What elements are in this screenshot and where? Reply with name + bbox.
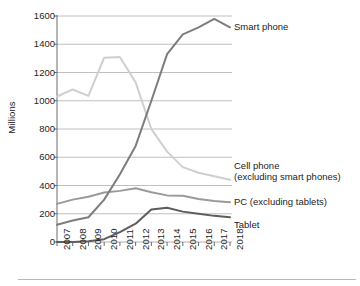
x-tick-label: 2015	[187, 228, 198, 250]
y-tick-label: 800	[39, 124, 55, 134]
y-tick-label: 200	[39, 209, 55, 219]
y-axis-tick-labels: 16001400120010008006004002000	[20, 0, 55, 286]
y-tick-label: 400	[39, 181, 55, 191]
x-tick-label: 2009	[92, 228, 103, 250]
series-label-pc: PC (excluding tablets)	[234, 196, 327, 208]
x-tick-label: 2008	[77, 228, 88, 250]
y-tick-label: 1000	[34, 96, 55, 106]
x-tick-label: 2011	[124, 229, 135, 250]
x-tick-label: 2017	[218, 228, 229, 250]
y-tick-label: 1600	[34, 11, 55, 21]
x-tick-label: 2007	[61, 228, 72, 250]
series-label-tablet: Tablet	[234, 219, 259, 231]
series-label-cell-phone-line1: Cell phone	[234, 160, 279, 172]
x-tick-label: 2013	[155, 228, 166, 250]
y-tick-label: 0	[50, 237, 55, 247]
x-tick-label: 2018	[234, 228, 245, 250]
line-chart: Millions 16001400120010008006004002000 2…	[0, 0, 360, 286]
y-tick-label: 1400	[34, 39, 55, 49]
series-label-cell-phone-line2: (excluding smart phones)	[234, 171, 341, 183]
y-axis-title: Millions	[6, 88, 17, 148]
y-tick-label: 1200	[34, 68, 55, 78]
page-bottom-rule	[18, 279, 356, 280]
x-tick-label: 2014	[171, 228, 182, 250]
x-tick-label: 2012	[140, 228, 151, 250]
y-tick-label: 600	[39, 152, 55, 162]
x-tick-label: 2010	[108, 228, 119, 250]
x-tick-label: 2016	[203, 228, 214, 250]
series-label-smart-phone: Smart phone	[234, 21, 288, 33]
